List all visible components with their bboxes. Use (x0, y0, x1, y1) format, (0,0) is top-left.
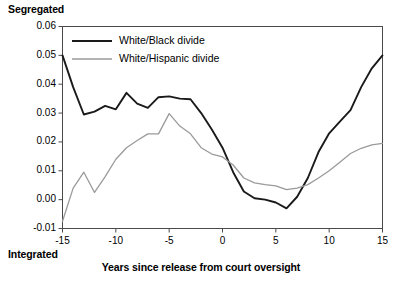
data-line-white-black (63, 55, 383, 208)
segregation-line-chart: Segregated Integrated Years since releas… (0, 0, 402, 281)
legend-label-1: White/Hispanic divide (119, 52, 219, 64)
legend-label-0: White/Black divide (119, 34, 205, 46)
data-line-white-hispanic (63, 114, 383, 222)
